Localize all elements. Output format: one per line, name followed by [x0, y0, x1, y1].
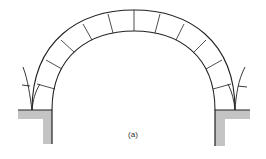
voussoir-joints: [37, 10, 231, 89]
right-plant-icon: [228, 67, 247, 110]
arch: [32, 10, 235, 110]
figure-label: (a): [118, 130, 148, 139]
right-abutment: [215, 110, 250, 146]
intrados-arc: [52, 31, 215, 110]
left-abutment: [18, 110, 52, 144]
extrados-arc: [32, 10, 235, 110]
